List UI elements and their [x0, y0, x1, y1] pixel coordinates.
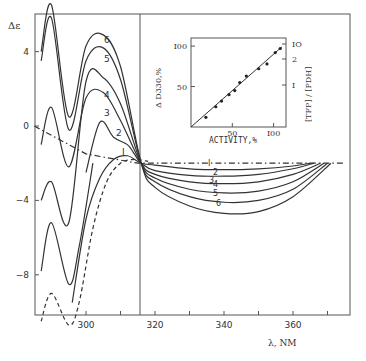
data-point	[220, 100, 223, 103]
data-point	[214, 105, 217, 108]
curve-label: 3	[104, 108, 110, 118]
inset-right-tick-label: I	[292, 81, 295, 90]
curve-label-right: 6	[216, 199, 221, 208]
inset-right-axis-label: [TFP] / [PDH]	[304, 67, 313, 122]
data-point	[238, 81, 241, 84]
inset-right-tick-label: 2	[292, 55, 297, 64]
curve-label-right: 4	[213, 180, 218, 189]
y-axis-label: Δε	[8, 20, 20, 31]
series-1-line	[72, 156, 310, 303]
y-tick-label: 4	[23, 47, 29, 57]
data-point	[274, 51, 277, 54]
data-point	[227, 93, 230, 96]
x-tick-label: 360	[284, 320, 301, 330]
x-axis-label: λ, NM	[268, 338, 297, 348]
cd-spectra-chart: 30032034036040−4−865432II23456 Δε λ, NM …	[0, 0, 366, 361]
inset-y-tick-label: I00	[174, 42, 187, 51]
inset-x-axis-label: ACTIVITY,%	[209, 136, 257, 145]
main-series-group	[34, 4, 345, 326]
inset-x-tick-label: I00	[267, 129, 280, 138]
y-tick-label: −4	[16, 195, 30, 205]
inset-y-tick-label: 50	[177, 83, 187, 92]
x-tick-label: 340	[215, 320, 232, 330]
inset-right-tick-label: IO	[292, 40, 302, 49]
curve-label: I	[122, 147, 125, 157]
data-point	[257, 67, 260, 70]
series-6-line	[41, 4, 331, 214]
data-point	[265, 62, 268, 65]
x-tick-label: 300	[77, 320, 94, 330]
data-point	[279, 47, 282, 50]
curve-label: 2	[116, 128, 122, 138]
data-point	[204, 116, 207, 119]
y-tick-label: 0	[23, 121, 29, 131]
y-tick-label: −8	[16, 270, 30, 280]
curve-label-right: 5	[213, 189, 218, 198]
inset-y-axis-label: Δ D330,%	[154, 67, 163, 108]
curve-label: 4	[104, 90, 110, 100]
inset-plot: 5050I00I00I2IO ACTIVITY,% Δ D330,% [TFP]…	[154, 38, 313, 145]
figure: 30032034036040−4−865432II23456 Δε λ, NM …	[0, 0, 366, 361]
curve-label: 6	[104, 35, 110, 45]
curve-label: 5	[104, 54, 110, 64]
curve-label-right: I	[208, 159, 210, 168]
data-point	[245, 74, 248, 77]
data-point	[233, 89, 236, 92]
series-baseline-line	[34, 126, 345, 163]
x-tick-label: 320	[146, 320, 163, 330]
